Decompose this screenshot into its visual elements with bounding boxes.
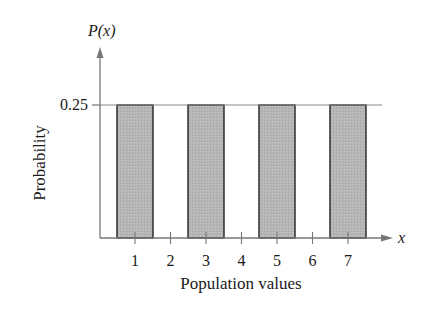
x-axis-arrow-icon (381, 235, 393, 242)
x-axis-label: Population values (180, 274, 301, 293)
x-tick-label-2: 2 (167, 252, 175, 269)
y-axis-symbol: P(x) (87, 22, 116, 40)
x-tick-label-3: 3 (202, 252, 210, 269)
x-tick-label-5: 5 (273, 252, 281, 269)
x-tick-label-4: 4 (238, 252, 246, 269)
bar-x-7 (330, 105, 366, 238)
y-tick-label: 0.25 (60, 96, 88, 113)
y-axis-arrow-icon (97, 47, 104, 58)
bar-x-5 (259, 105, 295, 238)
x-tick-label-1: 1 (131, 252, 139, 269)
y-axis-label: Probability (30, 125, 49, 201)
bar-x-1 (117, 105, 153, 238)
x-tick-label-7: 7 (344, 252, 352, 269)
bar-x-3 (188, 105, 224, 238)
bars-group (117, 105, 366, 238)
x-tick-label-6: 6 (309, 252, 317, 269)
probability-bar-chart: P(x) x 0.25 Probability Population value… (0, 0, 432, 314)
x-axis-symbol: x (397, 229, 405, 246)
